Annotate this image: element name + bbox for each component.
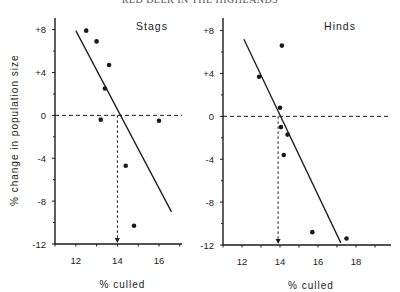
arrow-down-icon [276,239,281,244]
x-tick-label: 16 [313,256,324,267]
regression-line [244,39,341,243]
x-tick-label: 14 [112,255,123,266]
arrow-down-icon [115,238,120,243]
x-axis-title: % culled [288,280,334,291]
data-point [157,118,162,123]
x-tick-label: 14 [275,256,286,267]
x-tick-label: 18 [351,256,362,267]
data-point [98,117,103,122]
panel-label: Hinds [324,20,356,32]
data-point [257,74,262,79]
data-point [280,43,285,48]
y-tick-label: -4 [38,153,46,164]
panel-label: Stags [136,20,168,32]
data-point [132,223,137,228]
culling-charts: +8+40-4-8-12121416% culledStags +8+40-4-… [0,0,400,292]
y-tick-label: -8 [38,196,46,207]
data-point [344,236,349,241]
hinds-panel: +8+40-4-8-1212141618% culledHinds [200,18,391,291]
x-tick-label: 12 [237,256,248,267]
data-point [278,105,283,110]
data-point [107,63,112,68]
y-tick-label: -8 [206,197,214,208]
y-tick-label: +4 [35,67,46,78]
stags-panel: +8+40-4-8-12121416% culledStags [32,18,182,290]
y-tick-label: 0 [209,111,214,122]
y-tick-label: +8 [35,24,46,35]
data-point [285,132,290,137]
y-tick-label: -12 [32,239,46,250]
data-point [310,230,315,235]
y-tick-label: +8 [203,25,214,36]
x-tick-label: 16 [154,255,165,266]
data-point [84,28,89,33]
x-axis-title: % culled [100,279,146,290]
data-point [123,163,128,168]
data-point [282,153,287,158]
y-axis-title: % change in population size [9,54,20,206]
data-point [103,86,108,91]
x-tick-label: 12 [71,255,82,266]
data-point [94,39,99,44]
y-tick-label: -12 [200,240,214,251]
data-point [279,125,284,130]
y-tick-label: -4 [206,154,214,165]
y-tick-label: 0 [41,110,46,121]
y-tick-label: +4 [203,68,214,79]
